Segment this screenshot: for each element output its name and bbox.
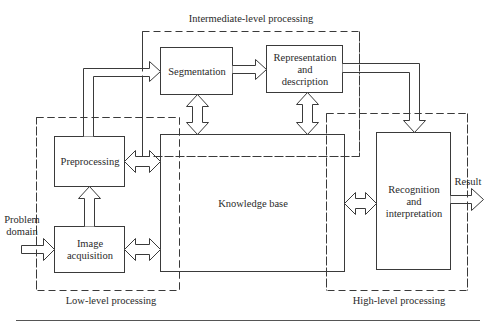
arrow-preprocessing-to-segmentation [84, 62, 161, 137]
recognition-line3: interpretation [386, 208, 443, 220]
intermediate-region-label: Intermediate-level processing [186, 13, 316, 25]
representation-line3: description [282, 76, 329, 88]
result-label: Result [451, 176, 485, 188]
image-acquisition-line2: acquisition [67, 250, 113, 262]
segmentation-text: Segmentation [168, 66, 226, 78]
arrow-acquisition-to-preprocessing [79, 187, 101, 227]
recognition-line1: Recognition [388, 184, 439, 196]
problem-domain-label: Problem domain [2, 214, 42, 238]
high-level-region-label: High-level processing [344, 295, 454, 307]
recognition-line2: and [406, 196, 421, 208]
double-arrow-kb-segmentation [187, 95, 209, 135]
knowledge-base-label: Knowledge base [161, 135, 345, 272]
segmentation-label: Segmentation [161, 48, 233, 95]
representation-label: Representation and description [267, 46, 343, 93]
image-acquisition-line1: Image [77, 238, 103, 250]
double-arrow-kb-acquisition [125, 239, 161, 261]
arrow-representation-to-recognition [343, 64, 426, 133]
representation-line2: and [297, 64, 312, 76]
problem-domain-line2: domain [2, 226, 42, 238]
low-level-region-label: Low-level processing [56, 295, 166, 307]
arrow-problem-domain-input [22, 239, 55, 261]
knowledge-base-text: Knowledge base [218, 198, 288, 210]
representation-line1: Representation [274, 52, 337, 64]
arrow-segmentation-to-representation [233, 60, 267, 80]
preprocessing-label: Preprocessing [55, 137, 125, 187]
image-acquisition-label: Image acquisition [55, 227, 125, 273]
problem-domain-line1: Problem [2, 214, 42, 226]
double-arrow-kb-representation [297, 93, 319, 135]
recognition-label: Recognition and interpretation [377, 133, 451, 270]
double-arrow-kb-recognition [345, 193, 377, 215]
preprocessing-text: Preprocessing [61, 156, 120, 168]
